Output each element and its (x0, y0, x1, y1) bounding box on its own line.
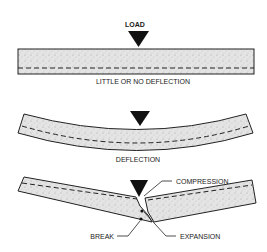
concrete-slab (18, 49, 254, 74)
break-leader (117, 221, 140, 236)
callout-compression: COMPRESSION (176, 178, 229, 185)
deflected-slab (18, 114, 253, 151)
panel-break: COMPRESSION EXPANSION BREAK (18, 177, 256, 240)
panel-no-deflection: LOAD LITTLE OR NO DEFLECTION (18, 21, 254, 85)
caption-no-deflection: LITTLE OR NO DEFLECTION (96, 78, 190, 85)
broken-slab-left (18, 177, 152, 222)
broken-slab-right (145, 180, 256, 222)
callout-expansion: EXPANSION (180, 233, 220, 240)
caption-deflection: DEFLECTION (116, 156, 160, 163)
load-label: LOAD (125, 21, 145, 28)
slab-deflection-diagram: LOAD LITTLE OR NO DEFLECTION DEFLECTION … (0, 0, 267, 252)
callout-break: BREAK (90, 233, 114, 240)
panel-deflection: DEFLECTION (18, 111, 253, 163)
load-arrow-icon (130, 111, 150, 126)
load-arrow-icon (128, 31, 149, 47)
